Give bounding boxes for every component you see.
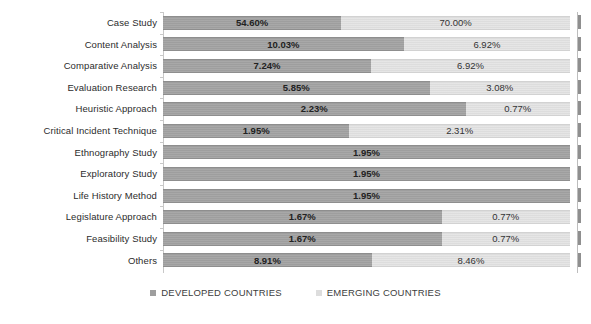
- stacked-bar[interactable]: 1.67%0.77%: [163, 210, 570, 224]
- bar-segment-developed[interactable]: 8.91%: [163, 253, 372, 267]
- category-axis-tick: [160, 228, 164, 229]
- bar-row: Legislature Approach1.67%0.77%: [0, 206, 591, 228]
- bar-segment-developed[interactable]: 1.95%: [163, 124, 349, 138]
- stacked-bar[interactable]: 1.67%0.77%: [163, 232, 570, 246]
- bar-value-label: 10.03%: [267, 40, 299, 50]
- bar-row: Comparative Analysis7.24%6.92%: [0, 55, 591, 77]
- stacked-bar[interactable]: 1.95%2.31%: [163, 124, 570, 138]
- stacked-bar[interactable]: 1.95%: [163, 167, 570, 181]
- bar-segment-developed[interactable]: 10.03%: [163, 37, 404, 51]
- legend-swatch-icon: [316, 290, 322, 296]
- legend-item[interactable]: DEVELOPED COUNTRIES: [150, 288, 281, 298]
- category-label: Content Analysis: [0, 40, 163, 50]
- bar-segment-developed[interactable]: 1.67%: [163, 210, 442, 224]
- chart-legend: DEVELOPED COUNTRIESEMERGING COUNTRIES: [0, 288, 591, 298]
- bar-value-label: 1.67%: [289, 234, 316, 244]
- value-axis-tick: [578, 80, 581, 94]
- value-axis-tick: [578, 209, 581, 223]
- bar-segment-emerging[interactable]: 0.77%: [466, 102, 570, 116]
- bar-segment-emerging[interactable]: 6.92%: [371, 59, 570, 73]
- category-label: Comparative Analysis: [0, 61, 163, 71]
- bar-row: Life History Method1.95%: [0, 185, 591, 207]
- bar-segment-developed[interactable]: 2.23%: [163, 102, 466, 116]
- bar-row: Critical Incident Technique1.95%2.31%: [0, 120, 591, 142]
- bar-value-label: 1.95%: [353, 148, 380, 158]
- bar-track: 8.91%8.46%: [163, 250, 570, 272]
- bar-track: 1.67%0.77%: [163, 206, 570, 228]
- bar-track: 7.24%6.92%: [163, 55, 570, 77]
- bar-row: Ethnography Study1.95%: [0, 142, 591, 164]
- bar-track: 1.95%: [163, 142, 570, 164]
- bar-segment-emerging[interactable]: 0.77%: [442, 232, 570, 246]
- bar-rows: Case Study54.60%70.00%Content Analysis10…: [0, 12, 591, 271]
- legend-item[interactable]: EMERGING COUNTRIES: [316, 288, 441, 298]
- plot-area: Case Study54.60%70.00%Content Analysis10…: [0, 12, 591, 276]
- category-label: Exploratory Study: [0, 169, 163, 179]
- bar-track: 1.95%: [163, 163, 570, 185]
- bar-row: Exploratory Study1.95%: [0, 163, 591, 185]
- value-axis-tick: [578, 253, 581, 267]
- stacked-bar-chart: Case Study54.60%70.00%Content Analysis10…: [0, 0, 591, 324]
- category-axis-tick: [160, 120, 164, 121]
- category-label: Legislature Approach: [0, 212, 163, 222]
- category-axis-tick: [160, 185, 164, 186]
- bar-segment-developed[interactable]: 1.95%: [163, 189, 570, 203]
- bar-segment-developed[interactable]: 1.95%: [163, 167, 570, 181]
- bar-segment-emerging[interactable]: 70.00%: [341, 16, 570, 30]
- bar-value-label: 0.77%: [492, 234, 519, 244]
- category-axis-tick: [160, 77, 164, 78]
- stacked-bar[interactable]: 8.91%8.46%: [163, 253, 570, 267]
- bar-value-label: 0.77%: [492, 212, 519, 222]
- bar-value-label: 6.92%: [457, 61, 484, 71]
- bar-value-label: 1.95%: [353, 191, 380, 201]
- bar-segment-developed[interactable]: 54.60%: [163, 16, 341, 30]
- bar-segment-emerging[interactable]: 0.77%: [442, 210, 570, 224]
- category-axis-tick: [160, 34, 164, 35]
- category-axis-tick: [160, 98, 164, 99]
- bar-track: 2.23%0.77%: [163, 98, 570, 120]
- stacked-bar[interactable]: 1.95%: [163, 189, 570, 203]
- stacked-bar[interactable]: 2.23%0.77%: [163, 102, 570, 116]
- bar-segment-emerging[interactable]: 8.46%: [372, 253, 570, 267]
- bar-segment-developed[interactable]: 7.24%: [163, 59, 371, 73]
- bar-track: 1.95%: [163, 185, 570, 207]
- value-axis-tick: [578, 58, 581, 72]
- bar-segment-developed[interactable]: 1.95%: [163, 145, 570, 159]
- legend-swatch-icon: [150, 290, 156, 296]
- bar-segment-developed[interactable]: 5.85%: [163, 81, 430, 95]
- bar-track: 5.85%3.08%: [163, 77, 570, 99]
- category-label: Heuristic Approach: [0, 104, 163, 114]
- stacked-bar[interactable]: 54.60%70.00%: [163, 16, 570, 30]
- category-label: Ethnography Study: [0, 148, 163, 158]
- bar-segment-emerging[interactable]: 2.31%: [349, 124, 570, 138]
- value-axis-tick: [578, 37, 581, 51]
- bar-value-label: 2.31%: [446, 126, 473, 136]
- value-axis-tick: [578, 15, 581, 29]
- category-label: Feasibility Study: [0, 234, 163, 244]
- bar-value-label: 8.91%: [254, 256, 281, 266]
- category-label: Evaluation Research: [0, 83, 163, 93]
- stacked-bar[interactable]: 10.03%6.92%: [163, 37, 570, 51]
- bar-value-label: 0.77%: [504, 104, 531, 114]
- category-label: Critical Incident Technique: [0, 126, 163, 136]
- value-axis-tick: [578, 145, 581, 159]
- bar-segment-developed[interactable]: 1.67%: [163, 232, 442, 246]
- category-label: Case Study: [0, 18, 163, 28]
- value-axis-tick: [578, 166, 581, 180]
- bar-row: Heuristic Approach2.23%0.77%: [0, 98, 591, 120]
- bar-segment-emerging[interactable]: 6.92%: [404, 37, 570, 51]
- bar-segment-emerging[interactable]: 3.08%: [430, 81, 570, 95]
- category-axis-tick: [160, 250, 164, 251]
- stacked-bar[interactable]: 7.24%6.92%: [163, 59, 570, 73]
- bar-row: Content Analysis10.03%6.92%: [0, 34, 591, 56]
- stacked-bar[interactable]: 1.95%: [163, 145, 570, 159]
- bar-track: 1.95%2.31%: [163, 120, 570, 142]
- bar-row: Evaluation Research5.85%3.08%: [0, 77, 591, 99]
- bar-row: Case Study54.60%70.00%: [0, 12, 591, 34]
- category-label: Others: [0, 256, 163, 266]
- bar-track: 10.03%6.92%: [163, 34, 570, 56]
- bar-track: 1.67%0.77%: [163, 228, 570, 250]
- stacked-bar[interactable]: 5.85%3.08%: [163, 81, 570, 95]
- category-axis-tick: [160, 12, 164, 13]
- bar-value-label: 54.60%: [236, 18, 268, 28]
